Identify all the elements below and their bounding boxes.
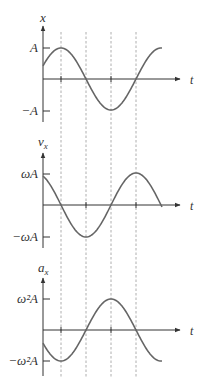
velocity-pos-label: ωA [21, 166, 38, 181]
shm-diagram: x t A −A vx t ωA −ωA ax t ω²A −ω²A [0, 0, 206, 390]
position-y-label: x [39, 10, 46, 25]
position-graph: x t A −A [21, 10, 194, 122]
position-pos-label: A [29, 40, 38, 55]
acceleration-graph: ax t ω²A −ω²A [8, 260, 194, 376]
velocity-y-label: vx [38, 134, 48, 151]
position-t-label: t [190, 73, 194, 87]
acceleration-y-label: ax [38, 260, 49, 277]
velocity-t-label: t [190, 199, 194, 213]
velocity-neg-label: −ωA [12, 229, 38, 244]
velocity-graph: vx t ωA −ωA [12, 134, 194, 248]
position-neg-label: −A [21, 103, 38, 118]
acceleration-t-label: t [190, 324, 194, 338]
acceleration-neg-label: −ω²A [8, 353, 38, 368]
acceleration-pos-label: ω²A [17, 291, 38, 306]
